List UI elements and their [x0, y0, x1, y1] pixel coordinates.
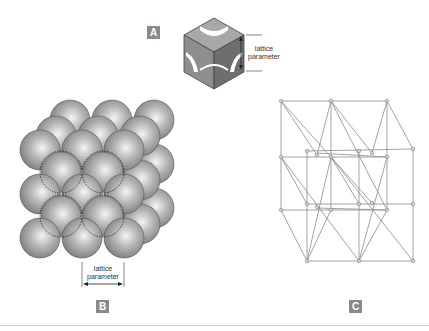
caption-line: lattice [84, 265, 122, 273]
bottom-divider [0, 325, 429, 326]
panel-label-b: B [96, 300, 109, 313]
panel-b-caption: lattice parameter [84, 265, 122, 281]
caption-line: parameter [244, 53, 284, 61]
panel-b-spheres [20, 100, 174, 258]
panel-c-lattice [281, 101, 413, 261]
panel-label-a: A [147, 26, 160, 39]
panel-a-caption: lattice parameter [244, 45, 284, 61]
diagram-canvas [0, 0, 429, 331]
panel-label-c: C [349, 300, 362, 313]
caption-line: lattice [244, 45, 284, 53]
caption-line: parameter [84, 273, 122, 281]
panel-a-cube [184, 18, 244, 89]
panel-c-lattice-points [279, 99, 415, 263]
